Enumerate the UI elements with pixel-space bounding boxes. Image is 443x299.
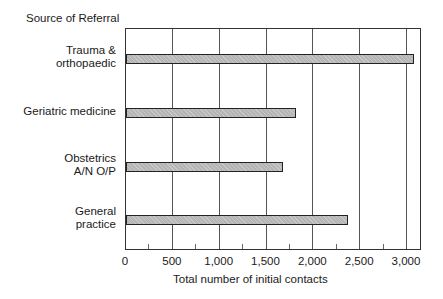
- category-label: Obstetrics A/N O/P: [64, 152, 116, 178]
- x-tick-label: 0: [122, 255, 128, 267]
- x-tick-label: 3,000: [392, 255, 421, 267]
- minor-tick: [336, 244, 337, 249]
- x-tick-label: 2,500: [345, 255, 374, 267]
- bar: [126, 54, 414, 64]
- minor-tick: [289, 244, 290, 249]
- x-axis-label: Total number of initial contacts: [173, 273, 328, 285]
- category-label: Geriatric medicine: [23, 105, 116, 118]
- minor-tick: [242, 244, 243, 249]
- minor-tick: [195, 244, 196, 249]
- bar: [126, 215, 348, 225]
- x-tick-label: 1,500: [251, 255, 280, 267]
- x-tick-label: 500: [162, 255, 181, 267]
- category-label: Trauma & orthopaedic: [56, 44, 116, 70]
- minor-tick: [383, 244, 384, 249]
- chart-title: Source of Referral: [26, 12, 119, 24]
- plot-area: [125, 28, 421, 250]
- x-tick-label: 2,000: [298, 255, 327, 267]
- bar: [126, 108, 296, 118]
- category-label: General practice: [75, 205, 116, 231]
- x-tick-label: 1,000: [204, 255, 233, 267]
- bar: [126, 162, 283, 172]
- minor-tick: [148, 244, 149, 249]
